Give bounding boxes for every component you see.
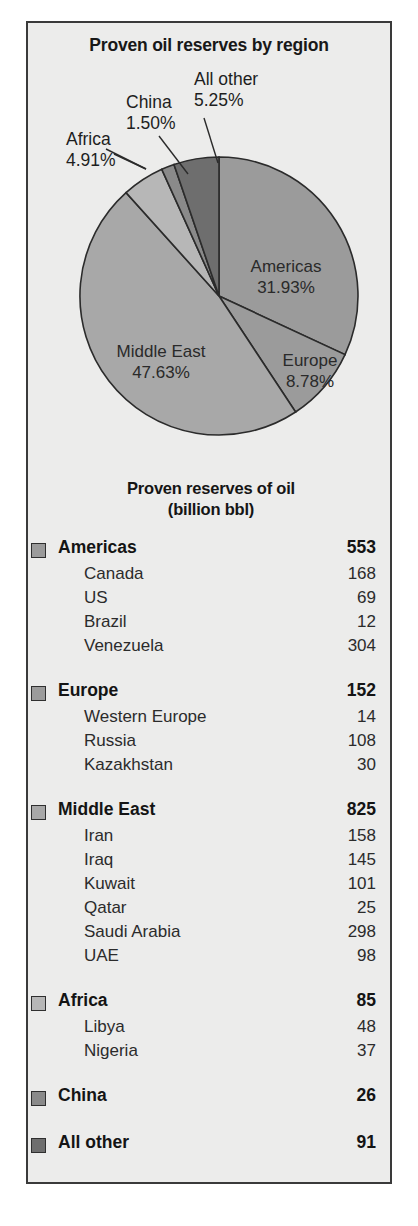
region-value: 26 xyxy=(310,1085,392,1106)
country-name: Kazakhstan xyxy=(58,755,310,775)
country-name: Canada xyxy=(58,564,310,584)
country-value: 158 xyxy=(310,826,392,846)
table-row: Libya48 xyxy=(28,1017,392,1041)
table-row: Americas553 xyxy=(28,537,392,564)
country-value: 108 xyxy=(310,731,392,751)
region-name: All other xyxy=(58,1132,310,1153)
legend-swatch-icon xyxy=(31,543,46,558)
table-row: Middle East825 xyxy=(28,799,392,826)
country-value: 145 xyxy=(310,850,392,870)
table-row: Saudi Arabia298 xyxy=(28,922,392,946)
table-row: Europe152 xyxy=(28,680,392,707)
country-value: 69 xyxy=(310,588,392,608)
table-row: China26 xyxy=(28,1085,392,1112)
country-value: 30 xyxy=(310,755,392,775)
legend-swatch-cell xyxy=(28,1138,58,1153)
region-value: 553 xyxy=(310,537,392,558)
table-rows: Americas553Canada168US69Brazil12Venezuel… xyxy=(28,537,392,1159)
table-row: Kuwait101 xyxy=(28,874,392,898)
country-name: US xyxy=(58,588,310,608)
legend-swatch-icon xyxy=(31,805,46,820)
table-row: Western Europe14 xyxy=(28,707,392,731)
table-row: Nigeria37 xyxy=(28,1041,392,1065)
legend-swatch-icon xyxy=(31,1138,46,1153)
region-name: Americas xyxy=(58,537,310,558)
region-name: Middle East xyxy=(58,799,310,820)
table-row: Iraq145 xyxy=(28,850,392,874)
legend-swatch-cell xyxy=(28,1091,58,1106)
country-value: 168 xyxy=(310,564,392,584)
pie-label-africa: Africa4.91% xyxy=(66,129,116,170)
country-name: Venezuela xyxy=(58,636,310,656)
legend-swatch-cell xyxy=(28,543,58,558)
pie-label-all-other: All other5.25% xyxy=(194,69,258,110)
country-value: 98 xyxy=(310,946,392,966)
table-group: Europe152Western Europe14Russia108Kazakh… xyxy=(28,680,392,779)
legend-swatch-cell xyxy=(28,686,58,701)
table-group: Middle East825Iran158Iraq145Kuwait101Qat… xyxy=(28,799,392,970)
table-row: Kazakhstan30 xyxy=(28,755,392,779)
legend-swatch-icon xyxy=(31,1091,46,1106)
country-name: Qatar xyxy=(58,898,310,918)
table-row: Venezuela304 xyxy=(28,636,392,660)
country-value: 12 xyxy=(310,612,392,632)
legend-swatch-icon xyxy=(31,686,46,701)
table-group: All other91 xyxy=(28,1132,392,1159)
country-value: 14 xyxy=(310,707,392,727)
country-value: 304 xyxy=(310,636,392,656)
country-name: Nigeria xyxy=(58,1041,310,1061)
country-name: Brazil xyxy=(58,612,310,632)
table-title: Proven reserves of oil (billion bbl) xyxy=(28,478,392,520)
country-name: Iran xyxy=(58,826,310,846)
pie-chart-svg: Americas31.93%Europe8.78%Middle East47.6… xyxy=(28,23,392,475)
table-row: Qatar25 xyxy=(28,898,392,922)
legend-swatch-cell xyxy=(28,805,58,820)
table-row: Canada168 xyxy=(28,564,392,588)
country-value: 298 xyxy=(310,922,392,942)
country-value: 25 xyxy=(310,898,392,918)
legend-swatch-icon xyxy=(31,996,46,1011)
pie-slices xyxy=(80,157,358,435)
country-value: 48 xyxy=(310,1017,392,1037)
country-name: Saudi Arabia xyxy=(58,922,310,942)
region-value: 825 xyxy=(310,799,392,820)
table-title-line-1: Proven reserves of oil xyxy=(28,478,392,499)
region-name: Europe xyxy=(58,680,310,701)
region-value: 152 xyxy=(310,680,392,701)
table-group: Americas553Canada168US69Brazil12Venezuel… xyxy=(28,537,392,660)
pie-chart: Americas31.93%Europe8.78%Middle East47.6… xyxy=(28,23,392,475)
country-name: Iraq xyxy=(58,850,310,870)
table-row: Brazil12 xyxy=(28,612,392,636)
country-value: 101 xyxy=(310,874,392,894)
table-row: US69 xyxy=(28,588,392,612)
pie-label-china: China1.50% xyxy=(126,92,176,133)
country-name: Russia xyxy=(58,731,310,751)
country-name: Kuwait xyxy=(58,874,310,894)
table-row: All other91 xyxy=(28,1132,392,1159)
country-name: UAE xyxy=(58,946,310,966)
table-group: China26 xyxy=(28,1085,392,1112)
table-row: Russia108 xyxy=(28,731,392,755)
table-row: Iran158 xyxy=(28,826,392,850)
country-value: 37 xyxy=(310,1041,392,1061)
country-name: Western Europe xyxy=(58,707,310,727)
reserves-table: Proven reserves of oil (billion bbl) Ame… xyxy=(28,478,392,1159)
leader-line-allother xyxy=(204,118,218,163)
table-group: Africa85Libya48Nigeria37 xyxy=(28,990,392,1065)
legend-swatch-cell xyxy=(28,996,58,1011)
region-value: 91 xyxy=(310,1132,392,1153)
table-row: Africa85 xyxy=(28,990,392,1017)
region-value: 85 xyxy=(310,990,392,1011)
region-name: Africa xyxy=(58,990,310,1011)
infographic-panel: Proven oil reserves by region Americas31… xyxy=(26,21,392,1184)
region-name: China xyxy=(58,1085,310,1106)
table-row: UAE98 xyxy=(28,946,392,970)
table-title-line-2: (billion bbl) xyxy=(28,499,392,520)
country-name: Libya xyxy=(58,1017,310,1037)
